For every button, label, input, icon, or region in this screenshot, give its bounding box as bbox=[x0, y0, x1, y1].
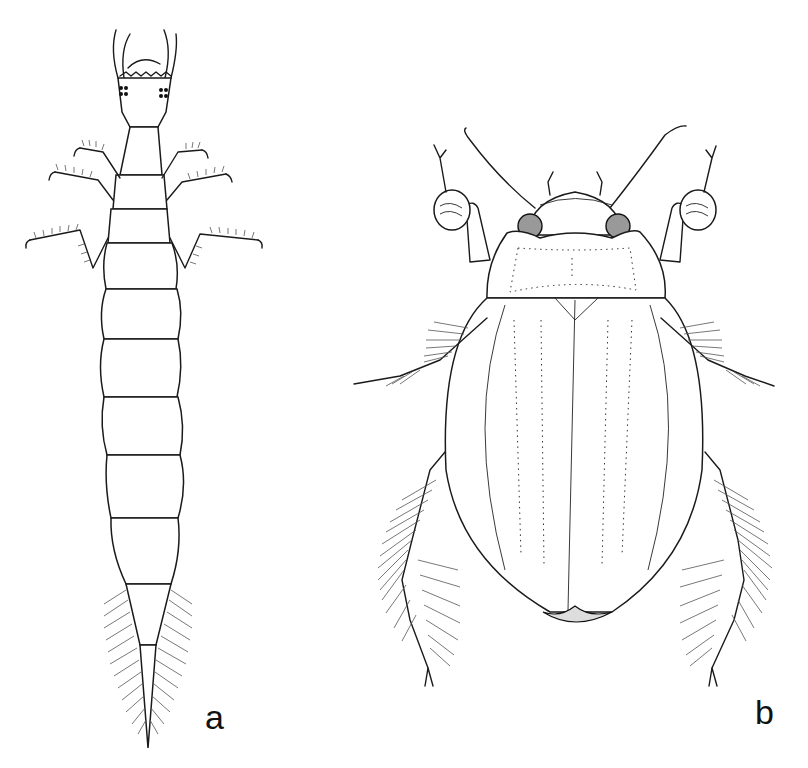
panel-label-b: b bbox=[755, 695, 774, 729]
beetle-drawing bbox=[354, 126, 774, 686]
figure-canvas bbox=[0, 0, 808, 768]
larva-drawing bbox=[26, 30, 262, 748]
panel-label-a: a bbox=[205, 700, 224, 734]
